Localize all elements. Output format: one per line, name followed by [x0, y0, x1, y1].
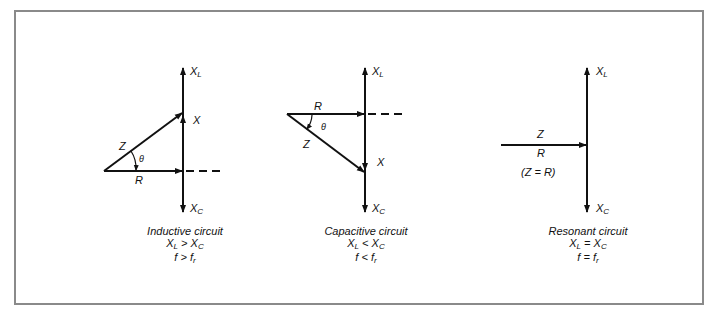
- capacitive-xc-label: XC: [372, 203, 385, 217]
- resonant-xl-label: XL: [596, 66, 608, 80]
- resonant-caption: Resonant circuit XL = XC f = fr: [518, 226, 658, 267]
- inductive-xc-label: XC: [190, 203, 203, 217]
- capacitive-caption: Capacitive circuit XL < XC f < fr: [296, 226, 436, 267]
- phasor-diagrams: [0, 0, 716, 324]
- caption-reactance-relation: XL < XC: [296, 238, 436, 253]
- inductive-xl-label: XL: [190, 66, 202, 80]
- caption-frequency-relation: f = fr: [518, 252, 658, 267]
- resonant-equality-label: (Z = R): [521, 167, 556, 178]
- caption-frequency-relation: f > fr: [115, 252, 255, 267]
- theta-arc: [307, 115, 312, 129]
- caption-frequency-relation: f < fr: [296, 252, 436, 267]
- caption-reactance-relation: XL = XC: [518, 238, 658, 253]
- inductive-z-label: Z: [119, 141, 126, 152]
- inductive-theta-label: θ: [139, 154, 144, 165]
- inductive-caption: Inductive circuit XL > XC f > fr: [115, 226, 255, 267]
- theta-arc: [131, 151, 136, 170]
- resonant-phasor: [501, 68, 587, 212]
- capacitive-z-label: Z: [303, 139, 310, 150]
- resonant-r-label: R: [537, 148, 545, 159]
- inductive-x-label: X: [193, 115, 200, 126]
- capacitive-xl-label: XL: [372, 66, 384, 80]
- inductive-r-label: R: [135, 175, 143, 186]
- caption-reactance-relation: XL > XC: [115, 238, 255, 253]
- capacitive-theta-label: θ: [321, 122, 326, 133]
- resonant-z-label: Z: [537, 129, 544, 140]
- capacitive-x-label: X: [377, 157, 384, 168]
- capacitive-r-label: R: [314, 101, 322, 112]
- resonant-xc-label: XC: [596, 203, 609, 217]
